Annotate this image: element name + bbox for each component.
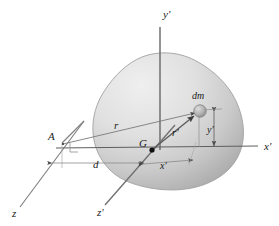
label-coord-y-prime: y'	[206, 124, 214, 135]
label-center-of-mass: G	[139, 137, 147, 149]
label-mass-element: dm	[192, 90, 204, 101]
label-y-prime-axis: y'	[162, 8, 171, 20]
label-point-a: A	[47, 130, 55, 142]
center-of-mass-point	[149, 147, 154, 152]
mechanics-diagram: y' x' z z' A G dm r r' d x' y'	[0, 0, 279, 226]
label-z-prime-axis: z'	[96, 206, 104, 218]
figure-canvas: y' x' z z' A G dm r r' d x' y'	[0, 0, 279, 226]
label-distance-d: d	[93, 158, 99, 170]
label-z-axis: z	[11, 207, 17, 219]
label-radius-r: r	[114, 119, 119, 131]
point-a-marker	[62, 143, 64, 145]
mass-element-dm	[194, 105, 206, 117]
label-x-prime-axis: x'	[263, 140, 272, 152]
label-radius-r-prime: r'	[172, 126, 179, 138]
label-coord-x-prime: x'	[159, 160, 167, 171]
